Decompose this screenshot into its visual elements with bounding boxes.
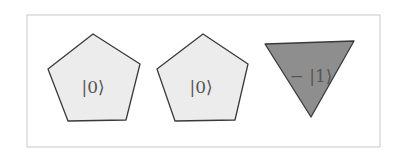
ket-zero-label-2: |0⟩ [189,77,212,97]
quantum-state-diagram: |0⟩ |0⟩ − |1⟩ [0,0,401,153]
negative-ket-one-label: − |1⟩ [290,66,333,86]
state-shape-2: − |1⟩ [265,41,354,117]
state-shape-1: |0⟩ [157,34,248,121]
ket-zero-label-1: |0⟩ [81,77,104,97]
state-shape-0: |0⟩ [48,34,140,121]
